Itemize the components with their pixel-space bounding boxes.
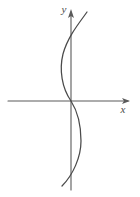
s-curve-path [61,12,87,186]
coordinate-plot-figure: Cubic-like S-shaped curve through the or… [0,0,140,197]
plot-canvas: x y [0,0,140,197]
y-axis-label: y [61,3,67,15]
x-axis-group: x [8,98,130,115]
curve-group [61,12,87,186]
y-axis-group: y [61,3,74,190]
x-axis-label: x [120,103,126,115]
